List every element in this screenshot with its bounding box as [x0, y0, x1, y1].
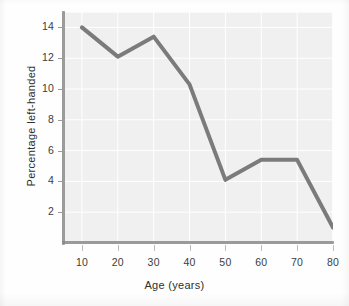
x-axis-title: Age (years): [0, 279, 349, 291]
x-tick-label: 40: [177, 256, 203, 268]
y-axis-line: [62, 11, 65, 245]
data-line-percentage-left-handed: [82, 27, 333, 227]
y-tick-label: 2: [32, 205, 54, 217]
y-tick-mark: [58, 151, 63, 152]
x-axis-line: [62, 241, 334, 244]
x-tick-label: 30: [141, 256, 167, 268]
horizontal-gridlines: [64, 27, 333, 212]
x-tick-label: 20: [105, 256, 131, 268]
y-axis-title: Percentage left-handed: [25, 46, 37, 206]
x-tick-mark: [333, 245, 334, 251]
x-tick-mark: [82, 245, 83, 251]
y-tick-mark: [58, 120, 63, 121]
x-tick-label: 10: [69, 256, 95, 268]
plot-area: [64, 12, 333, 243]
plot-canvas: [64, 12, 333, 243]
x-tick-mark: [225, 245, 226, 251]
y-tick-mark: [58, 181, 63, 182]
y-tick-mark: [58, 212, 63, 213]
x-tick-label: 50: [212, 256, 238, 268]
y-tick-mark: [58, 27, 63, 28]
y-tick-mark: [58, 89, 63, 90]
x-tick-label: 70: [284, 256, 310, 268]
x-tick-mark: [190, 245, 191, 251]
x-tick-label: 80: [320, 256, 346, 268]
x-tick-mark: [118, 245, 119, 251]
x-tick-mark: [154, 245, 155, 251]
chart-figure: 2468101214 1020304050607080 Percentage l…: [0, 0, 349, 306]
data-series-group: [82, 27, 333, 227]
x-tick-mark: [261, 245, 262, 251]
y-tick-label: 14: [32, 20, 54, 32]
y-tick-mark: [58, 58, 63, 59]
x-tick-label: 60: [248, 256, 274, 268]
x-tick-mark: [297, 245, 298, 251]
